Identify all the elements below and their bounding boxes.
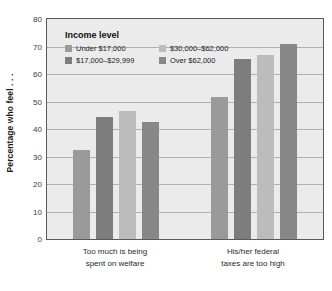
- legend-entry: Under $17,000: [65, 44, 151, 53]
- bar: [119, 111, 136, 239]
- legend-swatch-icon: [159, 57, 166, 64]
- y-axis-tick-label: 30: [33, 152, 42, 161]
- legend-label: Over $62,000: [170, 56, 215, 65]
- x-axis-category-labels: Too much is beingspent on welfareHis/her…: [46, 246, 324, 288]
- bar-chart: Percentage who feel . . . 80706050403020…: [0, 0, 332, 291]
- legend-title: Income level: [65, 30, 228, 40]
- bar: [73, 150, 90, 239]
- y-axis-tick-label: 70: [33, 42, 42, 51]
- bar: [142, 122, 159, 239]
- legend-swatch-icon: [65, 45, 72, 52]
- x-axis-category-label-line: His/her federal: [184, 246, 322, 258]
- x-axis-category-label: His/her federaltaxes are too high: [184, 246, 322, 269]
- legend-entries: Under $17,000$30,000–$62,000$17,000–$29,…: [65, 44, 228, 65]
- legend-entry: $30,000–$62,000: [159, 44, 228, 53]
- y-axis-tick-label: 0: [38, 235, 42, 244]
- legend-label: $30,000–$62,000: [170, 44, 228, 53]
- y-axis-title: Percentage who feel . . .: [0, 0, 20, 245]
- y-axis-tick-label: 40: [33, 125, 42, 134]
- legend-entry: Over $62,000: [159, 56, 228, 65]
- bar: [96, 117, 113, 239]
- y-axis-tick-label: 10: [33, 207, 42, 216]
- legend-label: $17,000–$29,999: [76, 56, 134, 65]
- plot-area: Income level Under $17,000$30,000–$62,00…: [46, 18, 324, 240]
- legend-label: Under $17,000: [76, 44, 126, 53]
- legend-swatch-icon: [65, 57, 72, 64]
- x-axis-category-label-line: taxes are too high: [184, 258, 322, 270]
- bar: [234, 59, 251, 239]
- y-axis-tick-label: 80: [33, 15, 42, 24]
- x-axis-category-label: Too much is beingspent on welfare: [46, 246, 184, 269]
- y-axis-tick-label: 20: [33, 180, 42, 189]
- y-axis-tick-label: 50: [33, 97, 42, 106]
- y-axis-tick-label: 60: [33, 70, 42, 79]
- bar: [257, 55, 274, 239]
- bar: [211, 97, 228, 239]
- x-axis-category-label-line: Too much is being: [46, 246, 184, 258]
- legend-entry: $17,000–$29,999: [65, 56, 151, 65]
- bar: [280, 44, 297, 239]
- y-axis-tick-labels: 80706050403020100: [20, 18, 46, 240]
- legend: Income level Under $17,000$30,000–$62,00…: [59, 27, 234, 69]
- y-axis-title-text: Percentage who feel . . .: [5, 73, 15, 172]
- x-axis-category-label-line: spent on welfare: [46, 258, 184, 270]
- legend-swatch-icon: [159, 45, 166, 52]
